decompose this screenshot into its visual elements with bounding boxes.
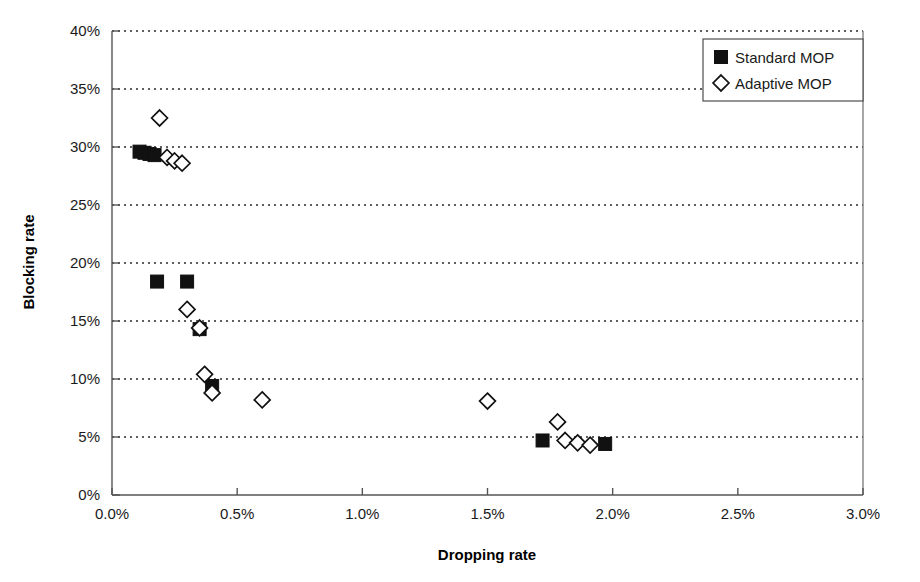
y-tick-label: 5% — [78, 428, 100, 445]
x-tick-label: 2.5% — [721, 505, 755, 522]
x-tick-label: 2.0% — [596, 505, 630, 522]
data-point-adaptive-mop — [582, 437, 598, 453]
y-tick-label: 15% — [70, 312, 100, 329]
data-point-standard-mop — [536, 434, 549, 447]
data-point-adaptive-mop — [152, 110, 168, 126]
x-tick-label: 3.0% — [846, 505, 880, 522]
data-point-adaptive-mop — [179, 301, 195, 317]
data-point-adaptive-mop — [550, 414, 566, 430]
y-tick-label: 20% — [70, 254, 100, 271]
data-point-adaptive-mop — [480, 393, 496, 409]
data-point-standard-mop — [151, 275, 164, 288]
data-point-adaptive-mop — [570, 435, 586, 451]
y-tick-label: 30% — [70, 138, 100, 155]
data-point-standard-mop — [148, 149, 161, 162]
y-tick-label: 10% — [70, 370, 100, 387]
x-tick-label: 0.5% — [220, 505, 254, 522]
chart-canvas: 0.0%0.5%1.0%1.5%2.0%2.5%3.0% 0%5%10%15%2… — [0, 0, 920, 582]
y-tick-label: 25% — [70, 196, 100, 213]
y-tick-label: 0% — [78, 486, 100, 503]
chart-legend: Standard MOPAdaptive MOP — [703, 39, 863, 101]
x-tick-label: 0.0% — [95, 505, 129, 522]
data-point-adaptive-mop — [254, 392, 270, 408]
data-point-standard-mop — [181, 275, 194, 288]
legend-label-adaptive-mop: Adaptive MOP — [735, 75, 832, 92]
scatter-chart: 0.0%0.5%1.0%1.5%2.0%2.5%3.0% 0%5%10%15%2… — [0, 0, 920, 582]
data-points-group — [133, 110, 612, 453]
data-point-adaptive-mop — [557, 433, 573, 449]
legend-label-standard-mop: Standard MOP — [735, 49, 834, 66]
y-tick-label: 35% — [70, 80, 100, 97]
legend-marker-standard-mop — [715, 51, 728, 64]
y-axis-title: Blocking rate — [20, 214, 37, 309]
x-axis-title: Dropping rate — [438, 546, 536, 563]
x-tick-label: 1.0% — [345, 505, 379, 522]
x-axis-ticks: 0.0%0.5%1.0%1.5%2.0%2.5%3.0% — [95, 488, 880, 522]
y-tick-label: 40% — [70, 22, 100, 39]
data-point-standard-mop — [599, 437, 612, 450]
x-tick-label: 1.5% — [470, 505, 504, 522]
